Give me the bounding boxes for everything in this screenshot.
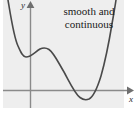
annotation-line-2: continuous — [55, 18, 123, 31]
figure-smooth-continuous-curve: smooth and continuous y x — [0, 0, 135, 117]
annotation-text: smooth and continuous — [55, 5, 123, 30]
y-axis-arrowhead — [27, 1, 35, 8]
annotation-line-1: smooth and — [55, 5, 123, 18]
x-axis-label: x — [129, 95, 133, 104]
y-axis-label: y — [21, 1, 25, 10]
